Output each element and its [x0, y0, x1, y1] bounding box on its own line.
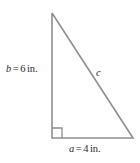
triangle-drawing: [0, 0, 140, 163]
label-side-a-equals: =: [74, 143, 83, 154]
label-side-a: a=4in.: [69, 144, 101, 155]
right-angle-marker-icon: [52, 128, 62, 138]
label-side-b-unit: in.: [25, 63, 37, 74]
label-side-a-unit: in.: [88, 143, 100, 154]
right-triangle-figure: b=6in. a=4in. c: [0, 0, 140, 163]
label-side-b-equals: =: [11, 63, 20, 74]
triangle-outline: [52, 13, 133, 138]
label-side-c: c: [96, 68, 101, 79]
label-side-b: b=6in.: [6, 64, 38, 75]
